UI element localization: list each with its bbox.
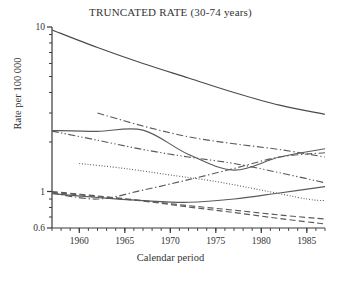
series-line xyxy=(52,30,325,114)
x-axis-label: Calendar period xyxy=(0,252,341,263)
series-line xyxy=(52,187,325,203)
svg-text:1965: 1965 xyxy=(115,236,134,246)
series-line xyxy=(52,131,325,183)
y-axis-label: Rate per 100 000 xyxy=(12,39,23,149)
series-line xyxy=(52,192,325,220)
series-line xyxy=(52,129,325,170)
svg-text:1970: 1970 xyxy=(161,236,180,246)
svg-text:1985: 1985 xyxy=(297,236,316,246)
svg-text:1975: 1975 xyxy=(206,236,225,246)
svg-text:1980: 1980 xyxy=(252,236,271,246)
svg-text:1: 1 xyxy=(40,187,45,197)
svg-text:0.6: 0.6 xyxy=(33,223,45,233)
tick-labels: 1010.6196019651970197519801985 xyxy=(33,22,316,246)
svg-text:10: 10 xyxy=(36,22,46,32)
chart-title: TRUNCATED RATE (30-74 years) xyxy=(0,6,341,18)
plot-area: 1010.6196019651970197519801985 xyxy=(0,0,341,284)
data-series-group xyxy=(52,30,325,224)
svg-text:1960: 1960 xyxy=(70,236,89,246)
series-line xyxy=(79,163,325,200)
series-line xyxy=(98,113,326,157)
chart-figure: TRUNCATED RATE (30-74 years) Rate per 10… xyxy=(0,0,341,284)
